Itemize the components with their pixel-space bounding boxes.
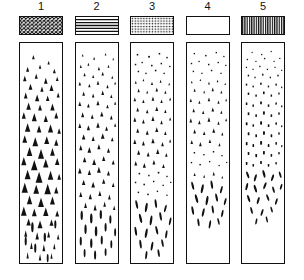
horizontal-stripe-icon — [76, 17, 118, 34]
column-marks-4 — [187, 43, 229, 263]
column-marks-1 — [20, 43, 62, 263]
column-4[interactable]: 4 — [185, 0, 231, 280]
column-label-2: 2 — [93, 0, 99, 16]
column-label-1: 1 — [38, 0, 44, 16]
stipple-dot-icon — [131, 17, 173, 34]
legend-swatch-5[interactable] — [241, 16, 285, 35]
column-marks-3 — [131, 43, 173, 263]
blank-swatch-icon — [187, 17, 229, 34]
column-marks-5 — [242, 43, 284, 263]
vertical-stripe-icon — [242, 17, 284, 34]
column-1[interactable]: 1 — [18, 0, 64, 280]
column-label-3: 3 — [149, 0, 155, 16]
legend-swatch-3[interactable] — [130, 16, 174, 35]
figure-canvas: 1 — [0, 0, 304, 280]
column-2[interactable]: 2 — [74, 0, 120, 280]
diamond-crosshatch-icon — [20, 17, 62, 34]
legend-swatch-4[interactable] — [186, 16, 230, 35]
column-group: 1 — [0, 0, 304, 280]
column-panel-4[interactable] — [186, 42, 230, 264]
column-3[interactable]: 3 — [129, 0, 175, 280]
column-panel-5[interactable] — [241, 42, 285, 264]
column-label-4: 4 — [204, 0, 210, 16]
legend-swatch-2[interactable] — [75, 16, 119, 35]
legend-swatch-1[interactable] — [19, 16, 63, 35]
column-5[interactable]: 5 — [240, 0, 286, 280]
column-panel-2[interactable] — [75, 42, 119, 264]
column-marks-2 — [76, 43, 118, 263]
column-panel-3[interactable] — [130, 42, 174, 264]
column-panel-1[interactable] — [19, 42, 63, 264]
column-label-5: 5 — [260, 0, 266, 16]
